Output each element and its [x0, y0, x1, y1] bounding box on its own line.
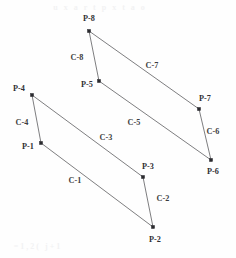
point-label-p-8: P-8	[83, 15, 95, 23]
vertex-marker-p-4	[30, 93, 33, 96]
vertex-marker-p-7	[197, 107, 200, 110]
vertex-marker-p-2	[151, 225, 154, 228]
point-label-p-1: P-1	[22, 143, 34, 151]
edge-c-3	[32, 95, 143, 177]
diagram-canvas: u x a r t p x t a o=1,2( j+1 C-1C-2C-3C-…	[0, 0, 236, 258]
diagram-svg	[0, 0, 236, 258]
edge-c-8	[89, 31, 99, 81]
edge-c-2	[143, 177, 153, 227]
edge-label-c-3: C-3	[99, 134, 112, 142]
vertex-marker-p-1	[39, 141, 42, 144]
edge-label-c-7: C-7	[145, 62, 158, 70]
vertex-marker-p-6	[209, 158, 212, 161]
edge-c-5	[99, 81, 211, 160]
point-label-p-4: P-4	[13, 85, 25, 93]
edge-label-c-1: C-1	[68, 177, 81, 185]
point-label-p-5: P-5	[81, 81, 93, 89]
point-label-p-6: P-6	[207, 168, 219, 176]
vertex-marker-p-5	[97, 79, 100, 82]
edge-c-7	[89, 31, 199, 109]
point-label-p-3: P-3	[142, 163, 154, 171]
edge-label-c-4: C-4	[15, 119, 28, 127]
edges-group	[32, 31, 211, 227]
edge-c-4	[32, 95, 41, 143]
edge-label-c-6: C-6	[206, 128, 219, 136]
point-label-p-2: P-2	[149, 236, 161, 244]
vertex-markers-group	[30, 29, 212, 228]
edge-label-c-2: C-2	[156, 195, 169, 203]
point-label-p-7: P-7	[199, 95, 211, 103]
vertex-marker-p-3	[141, 175, 144, 178]
edge-c-1	[41, 143, 153, 227]
edge-label-c-5: C-5	[127, 119, 140, 127]
vertex-marker-p-8	[87, 29, 90, 32]
edge-label-c-8: C-8	[70, 54, 83, 62]
